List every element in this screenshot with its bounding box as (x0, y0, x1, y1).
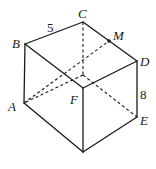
cube-diagram: B C M D A F E 5 8 (0, 0, 156, 169)
cube-drawing (0, 0, 156, 169)
label-M: M (113, 29, 124, 42)
label-A: A (8, 100, 16, 113)
edge-bottom-E (83, 117, 137, 152)
label-B: B (12, 37, 20, 50)
measure-DE: 8 (140, 88, 147, 101)
point-M (107, 39, 111, 43)
segment-AM (24, 41, 109, 103)
edge-FD (83, 61, 137, 88)
edge-BA (24, 44, 25, 103)
label-E: E (140, 114, 148, 127)
edge-BC (25, 22, 83, 44)
label-D: D (140, 55, 149, 68)
measure-BC: 5 (47, 21, 54, 34)
hidden-edge-back-E (83, 75, 137, 117)
edge-A-bottom (24, 103, 83, 152)
label-C: C (78, 7, 87, 20)
label-F: F (70, 93, 78, 106)
